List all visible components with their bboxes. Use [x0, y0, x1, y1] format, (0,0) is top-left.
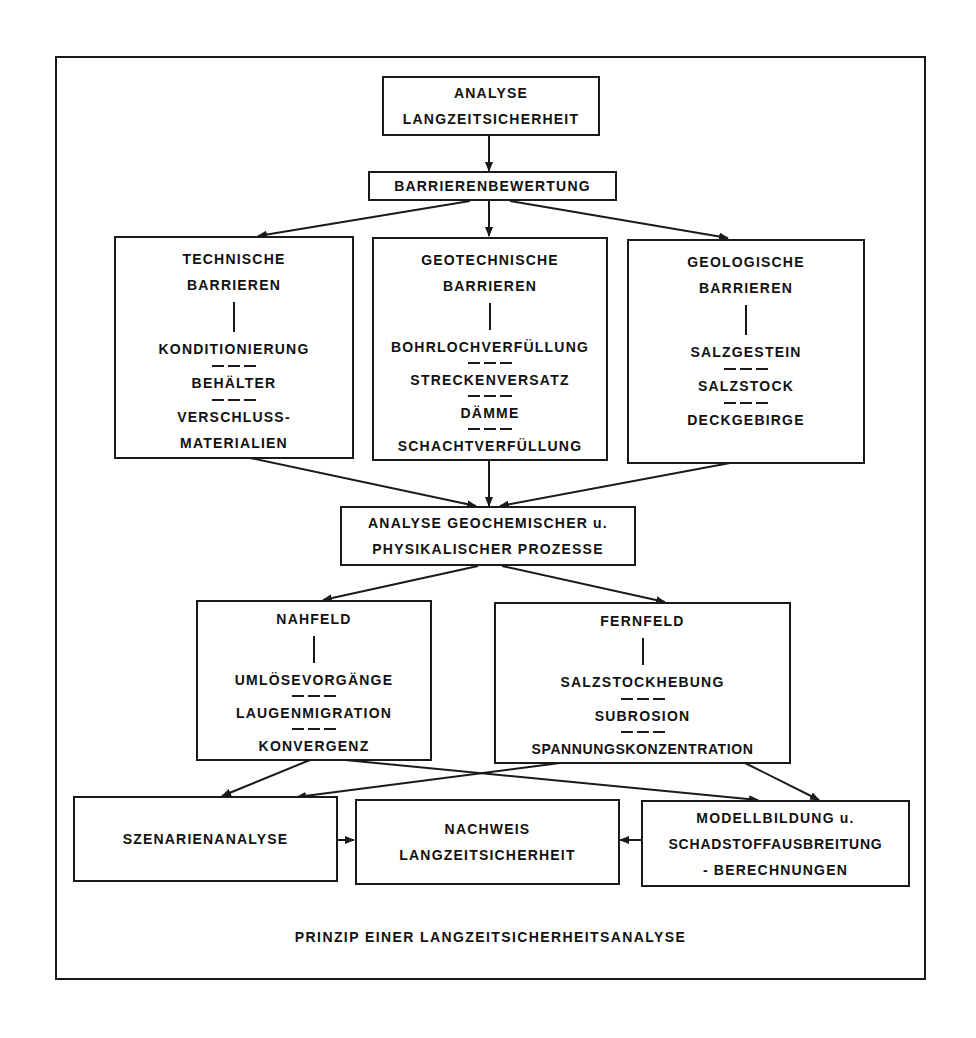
dashed-separator — [292, 693, 336, 700]
dashed-separator — [724, 399, 768, 407]
scenario-analysis-box: SZENARIENANALYSE — [73, 796, 338, 882]
geotechnical-title-1: GEOTECHNISCHE — [421, 247, 559, 273]
dashed-separator — [724, 365, 768, 373]
far-field-item: SPANNUNGSKONZENTRATION — [532, 736, 754, 762]
geotechnical-item: BOHRLOCHVERFÜLLUNG — [391, 334, 589, 360]
geological-title-1: GEOLOGISCHE — [687, 249, 804, 275]
connector-bar — [642, 638, 644, 665]
near-field-title: NAHFELD — [276, 606, 351, 632]
near-field-box: NAHFELD UMLÖSEVORGÄNGE LAUGENMIGRATION K… — [196, 600, 432, 761]
geotechnical-barriers-box: GEOTECHNISCHE BARRIEREN BOHRLOCHVERFÜLLU… — [372, 237, 608, 461]
proof-line-1: NACHWEIS — [445, 816, 531, 842]
near-field-item: UMLÖSEVORGÄNGE — [235, 667, 393, 693]
model-line-1: MODELLBILDUNG u. — [696, 805, 854, 831]
geotechnical-title-2: BARRIEREN — [443, 273, 537, 299]
geological-item: SALZSTOCK — [698, 373, 794, 399]
dashed-separator — [292, 726, 336, 733]
barrier-evaluation-box: BARRIERENBEWERTUNG — [368, 171, 617, 201]
dashed-separator — [212, 396, 256, 404]
dashed-separator — [621, 729, 665, 736]
geotechnical-item: SCHACHTVERFÜLLUNG — [398, 433, 583, 459]
model-line-3: - BERECHNUNGEN — [703, 857, 848, 883]
root-box-analyse-langzeitsicherheit: ANALYSE LANGZEITSICHERHEIT — [382, 76, 600, 136]
near-field-item: LAUGENMIGRATION — [236, 700, 392, 726]
dashed-separator — [468, 393, 512, 400]
geological-item: SALZGESTEIN — [690, 339, 801, 365]
technical-title-2: BARRIEREN — [187, 272, 281, 298]
geotechnical-item: DÄMME — [461, 400, 520, 426]
far-field-item: SUBROSION — [595, 703, 691, 729]
geological-barriers-box: GEOLOGISCHE BARRIEREN SALZGESTEIN SALZST… — [627, 239, 865, 464]
connector-bar — [233, 302, 235, 332]
scenario-analysis-label: SZENARIENANALYSE — [123, 826, 289, 852]
model-calculation-box: MODELLBILDUNG u. SCHADSTOFFAUSBREITUNG -… — [641, 800, 910, 887]
process-analysis-line-1: ANALYSE GEOCHEMISCHER u. — [368, 510, 608, 536]
technical-barriers-box: TECHNISCHE BARRIEREN KONDITIONIERUNG BEH… — [114, 236, 354, 459]
far-field-item: SALZSTOCKHEBUNG — [561, 669, 725, 695]
figure-caption: PRINZIP EINER LANGZEITSICHERHEITSANALYSE — [55, 929, 926, 945]
geological-title-2: BARRIEREN — [699, 275, 793, 301]
process-analysis-box: ANALYSE GEOCHEMISCHER u. PHYSIKALISCHER … — [340, 506, 636, 566]
dashed-separator — [468, 360, 512, 367]
barrier-evaluation-label: BARRIERENBEWERTUNG — [394, 173, 591, 199]
connector-bar — [745, 305, 747, 335]
root-line-1: ANALYSE — [454, 80, 528, 106]
technical-title-1: TECHNISCHE — [182, 246, 285, 272]
technical-item: VERSCHLUSS- — [177, 404, 291, 430]
technical-item: KONDITIONIERUNG — [159, 336, 310, 362]
model-line-2: SCHADSTOFFAUSBREITUNG — [668, 831, 882, 857]
proof-line-2: LANGZEITSICHERHEIT — [399, 842, 575, 868]
far-field-box: FERNFELD SALZSTOCKHEBUNG SUBROSION SPANN… — [494, 602, 791, 764]
technical-item: MATERIALIEN — [180, 430, 288, 456]
dashed-separator — [212, 362, 256, 370]
root-line-2: LANGZEITSICHERHEIT — [403, 106, 579, 132]
far-field-title: FERNFELD — [600, 608, 684, 634]
geotechnical-item: STRECKENVERSATZ — [410, 367, 569, 393]
process-analysis-line-2: PHYSIKALISCHER PROZESSE — [372, 536, 603, 562]
connector-bar — [489, 303, 491, 330]
technical-item: BEHÄLTER — [192, 370, 277, 396]
geological-item: DECKGEBIRGE — [687, 407, 804, 433]
dashed-separator — [621, 695, 665, 702]
dashed-separator — [468, 426, 512, 433]
near-field-item: KONVERGENZ — [259, 733, 370, 759]
connector-bar — [313, 636, 315, 663]
proof-longterm-safety-box: NACHWEIS LANGZEITSICHERHEIT — [355, 799, 620, 885]
